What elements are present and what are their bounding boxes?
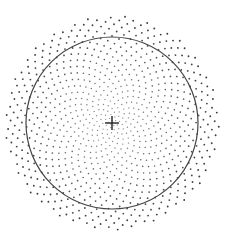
diagram-canvas — [0, 0, 229, 245]
center-crosshair-icon — [105, 116, 119, 130]
point-distribution-plot — [0, 0, 229, 245]
